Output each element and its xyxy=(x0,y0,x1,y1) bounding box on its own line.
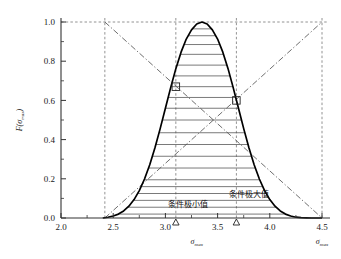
x-tick-label: 4.0 xyxy=(264,222,276,232)
x-tick-label: 2.5 xyxy=(108,222,120,232)
svg-text:F(σmax): F(σmax) xyxy=(15,108,25,132)
x-tick-label: 2.0 xyxy=(55,222,67,232)
chart-canvas: 0.00.20.40.60.81.0 2.02.53.03.54.04.5 条件… xyxy=(0,0,341,259)
y-tick-label: 0.0 xyxy=(44,213,56,223)
annotation-conditional-maximum: 条件极大值 xyxy=(229,189,269,199)
y-tick-label: 0.6 xyxy=(44,96,56,106)
y-tick-label: 0.8 xyxy=(44,56,56,66)
chart-figure: 0.00.20.40.60.81.0 2.02.53.03.54.04.5 条件… xyxy=(0,0,341,259)
annotation-conditional-minimum: 条件极小值 xyxy=(168,199,208,209)
y-tick-label: 0.2 xyxy=(44,174,55,184)
y-tick-label: 0.4 xyxy=(44,135,56,145)
y-axis-title: F(σmax) xyxy=(15,108,25,132)
x-tick-label: 3.0 xyxy=(160,222,172,232)
y-tick-label: 1.0 xyxy=(44,17,56,27)
x-tick-label: 4.5 xyxy=(316,222,328,232)
x-tick-label: 3.5 xyxy=(212,222,224,232)
